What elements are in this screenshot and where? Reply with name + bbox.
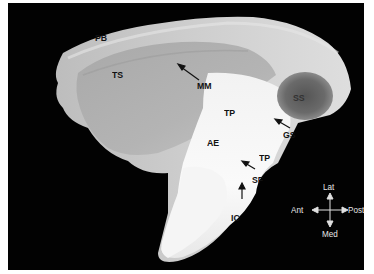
label-gs: GS: [283, 130, 296, 140]
compass-med: Med: [322, 230, 338, 239]
label-ss: SS: [293, 93, 305, 103]
compass-arrows: [312, 193, 348, 227]
ss-region: [277, 72, 333, 120]
label-ts: TS: [112, 70, 123, 80]
label-tp-upper: TP: [224, 108, 235, 118]
label-pb: PB: [95, 33, 107, 43]
compass-ant: Ant: [291, 206, 303, 215]
label-tp-lower: TP: [259, 153, 270, 163]
compass-post: Post: [348, 206, 364, 215]
specimen-photo: PB TS MM SS TP GS AE TP SF IC Lat Ant Po…: [8, 3, 364, 270]
label-ic: IC: [231, 213, 240, 223]
specimen-illustration: [8, 3, 364, 270]
compass-lat: Lat: [323, 183, 334, 192]
label-sf: SF: [252, 175, 263, 185]
label-mm: MM: [197, 81, 212, 91]
label-ae: AE: [207, 138, 219, 148]
